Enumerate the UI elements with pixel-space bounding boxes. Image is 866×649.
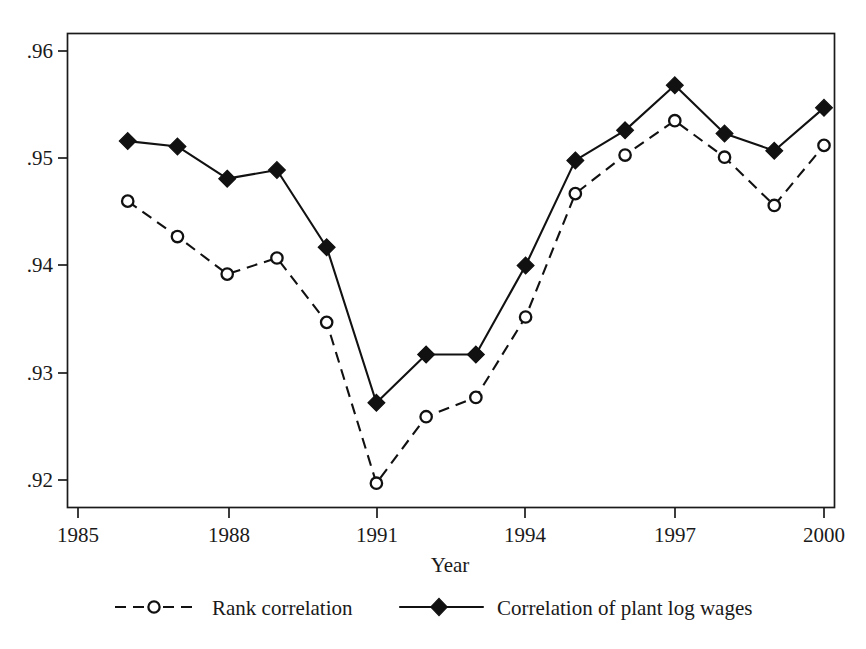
data-point-circle[interactable] <box>520 311 531 322</box>
legend-entry-plant-log-wages[interactable]: Correlation of plant log wages <box>400 596 752 620</box>
x-tick-label-2000: 2000 <box>803 523 845 547</box>
data-point-circle[interactable] <box>420 411 431 422</box>
series-markers-plant-log-wages <box>119 77 832 411</box>
legend-label-plant-log-wages: Correlation of plant log wages <box>497 596 752 620</box>
data-point-circle[interactable] <box>172 231 183 242</box>
x-axis-ticks: 1985 1988 1991 1994 1997 2000 <box>57 508 845 547</box>
data-point-diamond[interactable] <box>219 170 236 187</box>
data-point-circle[interactable] <box>818 140 829 151</box>
figure-container: .96 .95 .94 .93 .92 1985 1988 1991 1994 … <box>0 0 866 649</box>
data-point-circle[interactable] <box>122 195 133 206</box>
data-point-circle[interactable] <box>222 268 233 279</box>
data-point-circle[interactable] <box>619 149 630 160</box>
plot-frame <box>68 34 835 508</box>
legend-label-rank-correlation: Rank correlation <box>212 596 353 620</box>
data-point-circle[interactable] <box>769 200 780 211</box>
data-point-circle[interactable] <box>321 317 332 328</box>
x-tick-label-1997: 1997 <box>654 523 696 547</box>
x-tick-label-1985: 1985 <box>57 523 99 547</box>
x-tick-label-1988: 1988 <box>208 523 250 547</box>
data-point-circle[interactable] <box>271 252 282 263</box>
y-tick-label-95: .95 <box>27 146 53 170</box>
data-point-diamond[interactable] <box>467 346 484 363</box>
data-point-diamond[interactable] <box>318 239 335 256</box>
data-point-circle[interactable] <box>719 151 730 162</box>
data-point-diamond[interactable] <box>517 257 534 274</box>
data-point-circle[interactable] <box>570 188 581 199</box>
data-point-circle[interactable] <box>470 392 481 403</box>
legend-filled-diamond-icon <box>431 598 447 615</box>
y-tick-label-94: .94 <box>27 253 54 277</box>
data-point-diamond[interactable] <box>169 138 186 155</box>
x-tick-label-1994: 1994 <box>504 523 547 547</box>
y-tick-label-92: .92 <box>27 468 53 492</box>
data-point-circle[interactable] <box>669 115 680 126</box>
chart-legend: Rank correlation Correlation of plant lo… <box>115 596 752 620</box>
y-tick-label-96: .96 <box>27 39 53 63</box>
y-axis-ticks: .96 .95 .94 .93 .92 <box>27 39 67 492</box>
line-chart: .96 .95 .94 .93 .92 1985 1988 1991 1994 … <box>0 0 866 649</box>
y-tick-label-93: .93 <box>27 361 53 385</box>
legend-entry-rank-correlation[interactable]: Rank correlation <box>115 596 353 620</box>
data-point-diamond[interactable] <box>269 162 286 179</box>
legend-open-circle-icon <box>148 601 159 612</box>
data-point-diamond[interactable] <box>567 152 584 169</box>
x-axis-title: Year <box>431 553 470 577</box>
x-tick-label-1991: 1991 <box>356 523 398 547</box>
data-point-circle[interactable] <box>371 478 382 489</box>
data-point-diamond[interactable] <box>119 133 136 150</box>
